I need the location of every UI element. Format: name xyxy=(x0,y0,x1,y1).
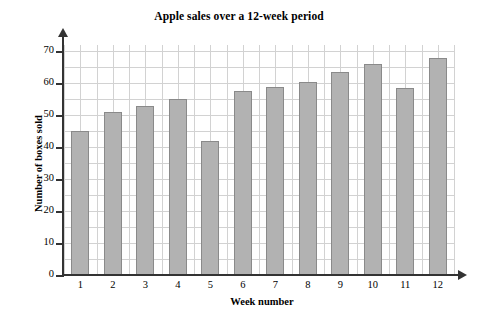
bar-week-9 xyxy=(331,72,349,275)
y-tick-mark xyxy=(56,243,64,245)
y-tick-label: 0 xyxy=(6,268,54,279)
y-tick-label: 70 xyxy=(6,44,54,55)
y-tick-mark xyxy=(56,51,64,53)
bar-week-8 xyxy=(299,82,317,275)
y-axis-line xyxy=(62,36,64,276)
y-tick-mark xyxy=(56,179,64,181)
bar-week-4 xyxy=(169,99,187,275)
y-tick-label: 10 xyxy=(6,236,54,247)
bar-week-10 xyxy=(364,64,382,275)
grid-line-vertical xyxy=(454,45,455,275)
bar-chart-figure: Apple sales over a 12-week period Number… xyxy=(0,0,478,322)
y-tick-label: 50 xyxy=(6,108,54,119)
y-tick-mark xyxy=(56,275,64,277)
x-tick-label-week-4: 4 xyxy=(161,279,195,290)
y-tick-mark xyxy=(56,83,64,85)
chart-title: Apple sales over a 12-week period xyxy=(0,10,478,22)
y-tick-mark xyxy=(56,147,64,149)
x-tick-label-week-8: 8 xyxy=(291,279,325,290)
bar-week-3 xyxy=(136,106,154,275)
y-tick-label: 60 xyxy=(6,76,54,87)
bar-week-7 xyxy=(266,87,284,275)
x-tick-label-week-5: 5 xyxy=(193,279,227,290)
y-tick-mark xyxy=(56,115,64,117)
x-tick-label-week-12: 12 xyxy=(421,279,455,290)
y-tick-label: 30 xyxy=(6,172,54,183)
x-tick-label-week-6: 6 xyxy=(226,279,260,290)
x-axis-arrow-icon xyxy=(458,270,467,280)
bar-week-6 xyxy=(234,91,252,275)
x-axis-title: Week number xyxy=(62,296,462,307)
bar-week-1 xyxy=(71,131,89,275)
bar-week-12 xyxy=(429,58,447,275)
x-tick-label-week-1: 1 xyxy=(63,279,97,290)
bar-week-11 xyxy=(396,88,414,275)
x-tick-label-week-11: 11 xyxy=(388,279,422,290)
x-tick-label-week-7: 7 xyxy=(258,279,292,290)
y-axis-arrow-icon xyxy=(58,28,68,37)
x-tick-label-week-3: 3 xyxy=(128,279,162,290)
x-tick-label-week-10: 10 xyxy=(356,279,390,290)
y-axis-title: Number of boxes sold xyxy=(33,64,44,264)
bar-week-5 xyxy=(201,141,219,275)
bars-layer xyxy=(64,45,454,275)
y-tick-label: 20 xyxy=(6,204,54,215)
y-tick-label: 40 xyxy=(6,140,54,151)
bar-week-2 xyxy=(104,112,122,275)
y-tick-mark xyxy=(56,211,64,213)
x-tick-label-week-9: 9 xyxy=(323,279,357,290)
x-axis-line xyxy=(62,274,460,276)
plot-area xyxy=(64,45,454,275)
x-tick-label-week-2: 2 xyxy=(96,279,130,290)
